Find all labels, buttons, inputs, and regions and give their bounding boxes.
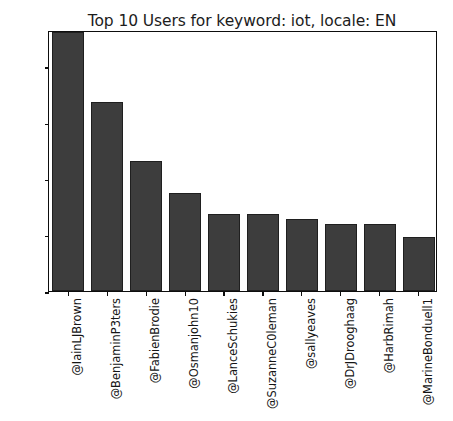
page-title: Top 10 Users for keyword: iot, locale: E…	[42, 12, 442, 30]
bar	[247, 214, 279, 291]
x-axis-tick-mark	[146, 291, 147, 296]
x-axis-tick-label: @MarineBonduell1	[423, 298, 434, 405]
x-axis-tick-mark	[418, 291, 419, 296]
bar	[169, 193, 201, 291]
x-axis-tick-mark	[379, 291, 380, 296]
x-axis-tick-label: @sallyeaves	[306, 298, 317, 369]
bar	[91, 102, 123, 291]
plot-axes: 0200400600800	[48, 31, 437, 292]
x-axis-tick-mark	[185, 291, 186, 296]
x-axis-labels: @IainLJBrown@BenjaminP3ters@FabienBrodie…	[48, 298, 437, 418]
y-axis-tick-mark	[45, 124, 50, 125]
x-axis-tick-mark	[223, 291, 224, 296]
bar	[403, 237, 435, 291]
x-axis-tick-label: @DrJDrooghaag	[345, 298, 356, 389]
x-axis-tick-mark	[262, 291, 263, 296]
x-axis-tick-mark	[68, 291, 69, 296]
x-axis-tick-label: @HarbRimah	[384, 298, 395, 373]
x-axis-tick-label: @IainLJBrown	[72, 298, 83, 376]
x-axis-tick-label: @FabienBrodie	[150, 298, 161, 383]
x-axis-tick-mark	[340, 291, 341, 296]
bar	[130, 161, 162, 291]
bar	[325, 224, 357, 292]
bar-chart-figure: Top 10 Users for keyword: iot, locale: E…	[0, 0, 453, 421]
bar	[52, 32, 84, 291]
x-axis-tick-label: @SuzanneC0leman	[267, 298, 278, 409]
bar	[364, 224, 396, 291]
x-axis-tick-label: @Osmanjohn10	[189, 298, 200, 389]
x-axis-tick-label: @BenjaminP3ters	[111, 298, 122, 399]
bar	[286, 219, 318, 291]
x-axis-tick-label: @LanceSchukies	[228, 298, 239, 394]
x-axis-tick-mark	[107, 291, 108, 296]
x-axis-tick-mark	[301, 291, 302, 296]
y-axis-tick-mark	[45, 292, 50, 293]
plot-area	[49, 32, 436, 291]
y-axis-tick-mark	[45, 67, 50, 68]
y-axis-tick-mark	[45, 236, 50, 237]
y-axis-tick-mark	[45, 180, 50, 181]
bar	[208, 214, 240, 291]
